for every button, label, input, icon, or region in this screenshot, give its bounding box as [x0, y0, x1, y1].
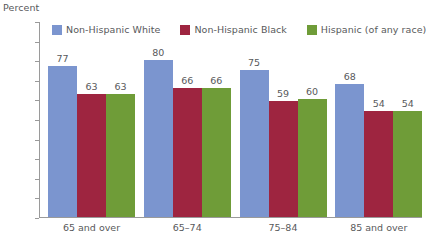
bar	[240, 70, 269, 217]
bar-group: 685454	[335, 22, 422, 217]
y-tick-mark	[35, 140, 39, 141]
y-tick-mark	[35, 22, 39, 23]
bar-value-label: 60	[306, 86, 318, 97]
bar	[269, 101, 298, 217]
y-tick-mark	[35, 81, 39, 82]
bar-value-label: 75	[248, 57, 260, 68]
bar-item: 68	[335, 21, 364, 217]
bar	[364, 111, 393, 217]
bar-value-label: 68	[344, 71, 356, 82]
bar-item: 66	[202, 21, 231, 217]
bar-group: 755960	[240, 22, 327, 217]
bars-layer: 776363806666755960685454	[40, 22, 422, 217]
bar-chart: Percent Non-Hispanic WhiteNon-Hispanic B…	[0, 0, 426, 239]
bar-item: 75	[240, 21, 269, 217]
bar	[48, 66, 77, 217]
y-tick-mark	[35, 159, 39, 160]
y-axis-title: Percent	[3, 2, 39, 13]
bar-group: 806666	[144, 22, 231, 217]
y-tick-mark	[35, 179, 39, 180]
bar-value-label: 63	[85, 81, 97, 92]
y-tick-mark	[35, 120, 39, 121]
bar-value-label: 63	[114, 81, 126, 92]
y-tick-mark	[35, 61, 39, 62]
bar-item: 63	[106, 21, 135, 217]
bar-value-label: 59	[277, 88, 289, 99]
bar	[106, 94, 135, 217]
bar-value-label: 80	[152, 47, 164, 58]
bar-item: 60	[298, 21, 327, 217]
bar-item: 59	[269, 21, 298, 217]
bar	[77, 94, 106, 217]
bar-item: 63	[77, 21, 106, 217]
bar-value-label: 66	[181, 75, 193, 86]
plot-area: 0102030405060708090100 77636380666675596…	[39, 22, 422, 218]
y-tick-mark	[35, 218, 39, 219]
bar-group: 776363	[48, 22, 135, 217]
bar-value-label: 54	[402, 98, 414, 109]
bar	[298, 99, 327, 217]
category-label: 85 and over	[350, 222, 407, 233]
y-tick-mark	[35, 42, 39, 43]
bar-item: 54	[393, 21, 422, 217]
bar-item: 66	[173, 21, 202, 217]
bar	[144, 60, 173, 217]
x-axis-line	[39, 217, 422, 218]
bar-item: 54	[364, 21, 393, 217]
bar-value-label: 54	[373, 98, 385, 109]
x-axis-category-labels: 65 and over65–7475–8485 and over	[39, 222, 422, 238]
y-tick-mark	[35, 100, 39, 101]
bar-item: 80	[144, 21, 173, 217]
bar	[173, 88, 202, 217]
bar-value-label: 66	[210, 75, 222, 86]
category-label: 65–74	[173, 222, 202, 233]
y-tick-mark	[35, 198, 39, 199]
category-label: 65 and over	[63, 222, 120, 233]
category-label: 75–84	[269, 222, 298, 233]
bar-value-label: 77	[56, 53, 68, 64]
bar	[202, 88, 231, 217]
bar-item: 77	[48, 21, 77, 217]
bar	[393, 111, 422, 217]
bar	[335, 84, 364, 217]
